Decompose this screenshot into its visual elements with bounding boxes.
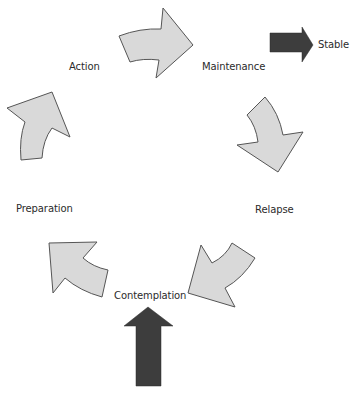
stage-label-action: Action xyxy=(69,61,100,73)
arrow-relapse-to-contemplation-icon xyxy=(188,243,255,307)
arrow-entry-up-icon xyxy=(124,307,173,386)
arrow-preparation-to-action-icon xyxy=(7,92,70,160)
stage-label-maintenance: Maintenance xyxy=(202,61,265,73)
stage-label-contemplation: Contemplation xyxy=(114,290,186,302)
stage-label-preparation: Preparation xyxy=(16,203,73,215)
exit-label-stable: Stable xyxy=(318,39,349,51)
arrow-exit-stable-icon xyxy=(270,27,313,62)
arrow-maintenance-to-relapse-icon xyxy=(237,97,303,172)
stage-label-relapse: Relapse xyxy=(255,204,294,216)
arrow-action-to-maintenance-icon xyxy=(119,8,193,78)
stages-of-change-diagram: Action Maintenance Stable Preparation Re… xyxy=(0,0,359,394)
diagram-canvas xyxy=(0,0,359,394)
arrow-contemplation-to-preparation-icon xyxy=(49,242,108,297)
